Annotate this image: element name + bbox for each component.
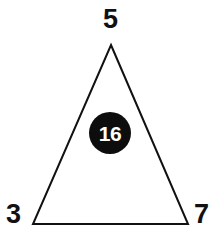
- vertex-label-bottom-right: 7: [194, 201, 209, 228]
- vertex-label-bottom-left: 3: [6, 201, 21, 228]
- vertex-label-top: 5: [103, 6, 118, 33]
- center-value-label: 16: [99, 123, 121, 144]
- diagram-canvas: 5 3 7 16: [0, 0, 221, 240]
- center-value-badge: 16: [89, 112, 131, 154]
